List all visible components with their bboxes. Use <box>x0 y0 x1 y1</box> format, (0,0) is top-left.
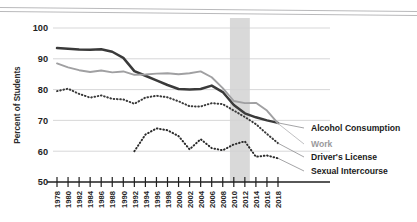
legend-label-work: Work <box>311 139 333 149</box>
y-tick-label: 70 <box>38 116 48 126</box>
y-tick-label: 80 <box>38 85 48 95</box>
x-tick-label: 2014 <box>252 190 261 208</box>
x-tick-label: 2012 <box>241 191 250 208</box>
x-tick-label: 2004 <box>197 190 206 208</box>
x-tick-label: 2010 <box>230 191 239 208</box>
x-tick-label: 1978 <box>53 191 62 208</box>
x-tick-label: 2018 <box>274 191 283 208</box>
x-tick-label: 1982 <box>75 191 84 208</box>
y-tick-label: 100 <box>33 23 48 33</box>
x-tick-label: 1998 <box>164 191 173 208</box>
legend-leader-line <box>278 143 304 157</box>
x-tick-label: 1980 <box>64 191 73 208</box>
x-tick-label: 2006 <box>208 191 217 208</box>
legend-leader-line <box>278 123 304 128</box>
y-tick-label: 50 <box>38 177 48 187</box>
y-axis-ticks: 1009080706050 <box>33 23 48 187</box>
y-tick-label: 90 <box>38 54 48 64</box>
chart-legend: Alcohol ConsumptionWorkDriver's LicenseS… <box>311 123 400 176</box>
x-tick-label: 1994 <box>142 190 151 208</box>
series-line-sexual-intercourse <box>134 128 278 158</box>
legend-label-sexual-intercourse: Sexual Intercourse <box>311 166 388 176</box>
y-axis-label: Percent of Students <box>13 66 22 144</box>
chart-figure: 1009080706050 19781980198219841986198819… <box>0 0 417 222</box>
x-tick-label: 2000 <box>175 191 184 208</box>
y-tick-label: 60 <box>38 147 48 157</box>
x-tick-label: 1988 <box>108 191 117 208</box>
x-tick-label: 1990 <box>120 191 129 208</box>
legend-leader-line <box>278 123 304 144</box>
x-tick-label: 1992 <box>131 191 140 208</box>
x-tick-label: 2008 <box>219 191 228 208</box>
legend-label-alcohol-consumption: Alcohol Consumption <box>311 123 400 133</box>
x-tick-label: 2002 <box>186 191 195 208</box>
legend-label-driver-s-license: Driver's License <box>311 152 377 162</box>
legend-leader-lines <box>278 123 304 171</box>
line-chart-plot: 1009080706050 19781980198219841986198819… <box>0 0 417 222</box>
x-tick-label: 1986 <box>97 191 106 208</box>
x-tick-label: 1984 <box>86 190 95 208</box>
x-tick-label: 1996 <box>153 191 162 208</box>
legend-leader-line <box>278 158 304 171</box>
x-tick-label: 2016 <box>263 191 272 208</box>
